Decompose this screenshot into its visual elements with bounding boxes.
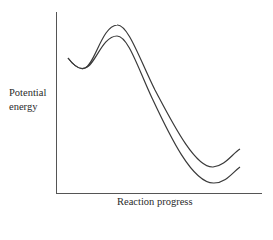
y-axis-label: Potential energy bbox=[9, 86, 46, 114]
y-axis-label-line2: energy bbox=[9, 100, 46, 114]
upper-energy-curve bbox=[68, 25, 240, 167]
y-axis-label-line1: Potential bbox=[9, 86, 46, 100]
x-axis-label: Reaction progress bbox=[117, 196, 193, 207]
lower-energy-curve bbox=[68, 36, 240, 183]
